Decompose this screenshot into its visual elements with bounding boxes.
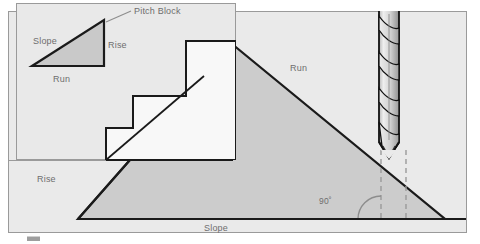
main-slope-label: Slope — [204, 223, 228, 233]
diagram-canvas: Slope Rise Run Pitch Block Run Rise Slop… — [0, 0, 480, 244]
main-run-label: Run — [290, 63, 307, 73]
drill-bit-icon — [379, 10, 399, 158]
right-angle-label: 90˚ — [319, 196, 332, 206]
inset-run-label: Run — [53, 74, 70, 84]
pitch-block-label: Pitch Block — [134, 6, 181, 16]
main-rise-label: Rise — [37, 174, 56, 184]
diagram-vector-layer — [0, 0, 480, 244]
inset-slope-label: Slope — [33, 36, 57, 46]
page-footer-mark — [27, 236, 40, 241]
inset-rise-label: Rise — [108, 40, 127, 50]
